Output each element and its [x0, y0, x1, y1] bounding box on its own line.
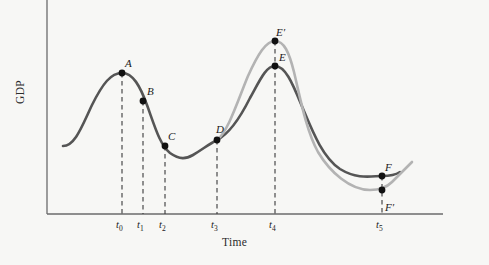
curve-series	[63, 41, 412, 190]
x-axis-title: Time	[222, 236, 247, 248]
curve-alternative-path	[217, 41, 412, 190]
point-label-Eprime: E′	[276, 26, 285, 38]
point-label-A: A	[125, 57, 132, 69]
point-label-D: D	[216, 123, 224, 135]
marker-point-F	[379, 173, 386, 180]
point-label-Fprime: F′	[385, 201, 394, 213]
gdp-business-cycle-chart: GDP Time ABCDEE′FF′ t0t1t2t3t4t5	[0, 0, 489, 265]
marker-point-Fprime	[379, 187, 386, 194]
point-label-B: B	[147, 85, 154, 97]
marker-point-Eprime	[272, 38, 279, 45]
x-tick-label-2: t2	[159, 219, 166, 233]
marker-point-B	[140, 98, 147, 105]
chart-canvas	[0, 0, 489, 265]
marker-point-D	[214, 137, 221, 144]
y-axis-title: GDP	[14, 80, 26, 104]
marker-point-C	[162, 143, 169, 150]
data-point-markers	[119, 38, 386, 194]
x-tick-label-3: t3	[211, 219, 218, 233]
x-tick-label-1: t1	[137, 219, 144, 233]
x-tick-label-5: t5	[376, 219, 383, 233]
x-tick-label-4: t4	[269, 219, 276, 233]
marker-point-E	[272, 63, 279, 70]
point-label-C: C	[168, 130, 175, 142]
marker-point-A	[119, 70, 126, 77]
x-tick-label-0: t0	[116, 219, 123, 233]
point-label-E: E	[279, 51, 286, 63]
curve-actual-business-cycle	[63, 66, 400, 177]
point-label-F: F	[385, 161, 392, 173]
